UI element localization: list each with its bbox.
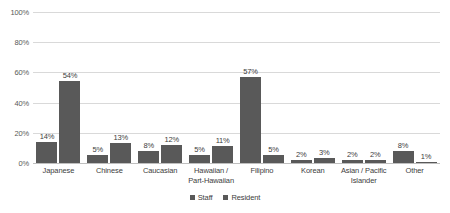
bar-group: 5%11%: [186, 12, 237, 163]
bar-column: 2%: [342, 12, 363, 163]
bar-column: 11%: [212, 12, 233, 163]
category-line: Hawaiian /: [186, 166, 237, 176]
bar-column: 13%: [110, 12, 131, 163]
bar-value-label: 5%: [93, 145, 103, 154]
y-axis-tick: 0%: [0, 159, 29, 168]
legend-item[interactable]: Staff: [190, 193, 213, 202]
bar-column: 2%: [365, 12, 386, 163]
category-line: Part-Hawaiian: [186, 176, 237, 186]
y-axis-tick: 100%: [0, 8, 29, 17]
bar: [161, 145, 182, 163]
category-line: Asian / Pacific: [338, 166, 389, 176]
bar-group: 2%2%: [338, 12, 389, 163]
category-line: Japanese: [33, 166, 84, 176]
bar-column: 12%: [161, 12, 182, 163]
x-axis-category-label: Filipino: [237, 166, 288, 186]
x-axis-category-label: Caucasian: [135, 166, 186, 186]
bar-value-label: 13%: [114, 133, 128, 142]
bar-column: 5%: [263, 12, 284, 163]
axis-baseline: [33, 163, 440, 164]
bar-group: 8%1%: [389, 12, 440, 163]
category-line: Korean: [287, 166, 338, 176]
bar: [36, 142, 57, 163]
legend-swatch-icon: [190, 195, 195, 200]
bar-value-label: 5%: [194, 145, 204, 154]
x-axis-category-label: Asian / PacificIslander: [338, 166, 389, 186]
bar-column: 8%: [138, 12, 159, 163]
bar: [342, 160, 363, 163]
bar-column: 8%: [393, 12, 414, 163]
y-axis-tick: 20%: [0, 128, 29, 137]
category-line: Other: [389, 166, 440, 176]
y-axis-tick: 60%: [0, 68, 29, 77]
bar-value-label: 14%: [40, 132, 54, 141]
bar-column: 14%: [36, 12, 57, 163]
x-axis-category-label: Other: [389, 166, 440, 186]
bar-column: 3%: [314, 12, 335, 163]
bar: [263, 155, 284, 163]
bar-chart: 0%20%40%60%80%100% 14%54%5%13%8%12%5%11%…: [0, 0, 450, 213]
bar-column: 1%: [416, 12, 437, 163]
bar: [240, 77, 261, 163]
legend-item[interactable]: Resident: [223, 193, 260, 202]
bar: [393, 151, 414, 163]
bar-column: 5%: [87, 12, 108, 163]
bar-groups: 14%54%5%13%8%12%5%11%57%5%2%3%2%2%8%1%: [33, 12, 440, 163]
category-line: Chinese: [84, 166, 135, 176]
legend-label: Resident: [231, 193, 260, 202]
bar-value-label: 8%: [398, 141, 408, 150]
bar-column: 5%: [189, 12, 210, 163]
bar-value-label: 3%: [319, 148, 329, 157]
bar: [212, 146, 233, 163]
x-axis-categories: JapaneseChineseCaucasianHawaiian /Part-H…: [33, 166, 440, 186]
bar-group: 57%5%: [237, 12, 288, 163]
bar-value-label: 57%: [243, 67, 257, 76]
x-axis-category-label: Hawaiian /Part-Hawaiian: [186, 166, 237, 186]
bar-value-label: 2%: [347, 150, 357, 159]
bar: [365, 160, 386, 163]
bar: [314, 158, 335, 163]
category-line: Islander: [338, 176, 389, 186]
bar-value-label: 5%: [268, 145, 278, 154]
bar-value-label: 8%: [143, 141, 153, 150]
x-axis-category-label: Japanese: [33, 166, 84, 186]
bar-value-label: 2%: [370, 150, 380, 159]
bar: [87, 155, 108, 163]
category-line: Caucasian: [135, 166, 186, 176]
legend-label: Staff: [198, 193, 213, 202]
bar-group: 5%13%: [84, 12, 135, 163]
bar-value-label: 54%: [63, 71, 77, 80]
bar-column: 57%: [240, 12, 261, 163]
bar-group: 2%3%: [287, 12, 338, 163]
bar: [189, 155, 210, 163]
y-axis-tick: 40%: [0, 98, 29, 107]
chart-legend: StaffResident: [0, 193, 450, 202]
bar: [416, 162, 437, 164]
bar-group: 14%54%: [33, 12, 84, 163]
legend-swatch-icon: [223, 195, 228, 200]
bar: [59, 81, 80, 163]
bar-column: 2%: [291, 12, 312, 163]
category-line: Filipino: [237, 166, 288, 176]
y-axis-tick: 80%: [0, 38, 29, 47]
bar-value-label: 1%: [421, 152, 431, 161]
bar: [138, 151, 159, 163]
bar-value-label: 11%: [216, 136, 230, 145]
x-axis-category-label: Chinese: [84, 166, 135, 186]
bar-column: 54%: [59, 12, 80, 163]
bar-value-label: 2%: [296, 150, 306, 159]
bar-value-label: 12%: [164, 135, 178, 144]
y-axis-labels: 0%20%40%60%80%100%: [0, 12, 29, 163]
bar: [110, 143, 131, 163]
x-axis-category-label: Korean: [287, 166, 338, 186]
bar: [291, 160, 312, 163]
bar-group: 8%12%: [135, 12, 186, 163]
